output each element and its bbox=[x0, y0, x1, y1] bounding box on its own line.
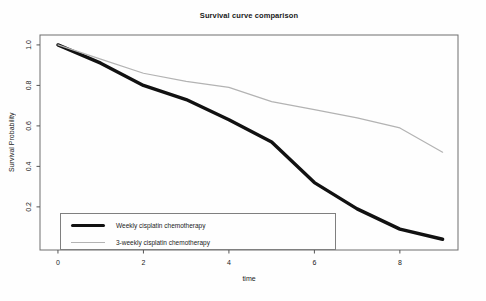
legend-line-swatch-gray-icon bbox=[71, 242, 105, 243]
x-tick-label: 4 bbox=[227, 259, 231, 266]
legend-label-weekly: Weekly cisplatin chemotherapy bbox=[116, 222, 205, 229]
legend-item-weekly: Weekly cisplatin chemotherapy bbox=[61, 221, 205, 229]
x-tick-label: 8 bbox=[398, 259, 402, 266]
x-axis-title: time bbox=[40, 275, 458, 282]
legend-box: Weekly cisplatin chemotherapy 3-weekly c… bbox=[60, 213, 336, 250]
legend-label-3weekly: 3-weekly cisplatin chemotherapy bbox=[116, 239, 210, 246]
y-tick-label: 0.8 bbox=[25, 80, 32, 90]
series-line-weekly bbox=[58, 45, 443, 239]
y-tick-label: 1.0 bbox=[25, 40, 32, 50]
y-tick-label: 0.6 bbox=[25, 121, 32, 131]
legend-item-3weekly: 3-weekly cisplatin chemotherapy bbox=[61, 238, 210, 246]
y-tick-label: 0.2 bbox=[25, 202, 32, 212]
survival-chart-figure: Survival curve comparison 024680.20.40.6… bbox=[0, 0, 486, 301]
x-tick-label: 0 bbox=[56, 259, 60, 266]
x-tick-label: 2 bbox=[141, 259, 145, 266]
x-tick-label: 6 bbox=[312, 259, 316, 266]
chart-svg: 024680.20.40.60.81.0 bbox=[0, 0, 486, 301]
legend-line-swatch-black-icon bbox=[71, 224, 105, 227]
y-axis-title: Survival Probability bbox=[8, 35, 20, 250]
y-tick-label: 0.4 bbox=[25, 161, 32, 171]
series-line-3weekly bbox=[58, 45, 443, 152]
